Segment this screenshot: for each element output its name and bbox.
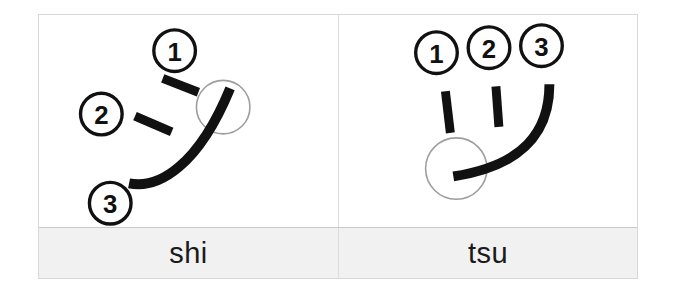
tsu-stroke-number-1: 1 bbox=[416, 32, 458, 74]
kana-stroke-order-table: 1 2 3 bbox=[38, 14, 638, 279]
number-label-2: 2 bbox=[482, 35, 496, 63]
romaji-label-tsu-text: tsu bbox=[468, 239, 508, 268]
romaji-label-row: shi tsu bbox=[39, 227, 637, 278]
romaji-label-shi-text: shi bbox=[169, 239, 208, 268]
tsu-stroke-2-path bbox=[496, 86, 499, 127]
shi-stroke-number-3: 3 bbox=[89, 182, 131, 224]
number-label-1: 1 bbox=[167, 38, 181, 66]
number-label-3: 3 bbox=[103, 190, 117, 218]
stroke-diagram-shi[interactable]: 1 2 3 bbox=[39, 15, 338, 227]
shi-stroke-number-2: 2 bbox=[81, 93, 123, 135]
tsu-stroke-3-path bbox=[453, 84, 549, 176]
tsu-stroke-number-2: 2 bbox=[468, 27, 510, 69]
shi-stroke-3-path bbox=[129, 88, 230, 184]
tsu-stroke-1-path bbox=[445, 91, 450, 133]
shi-stroke-2-path bbox=[135, 116, 172, 132]
number-label-3: 3 bbox=[534, 33, 548, 61]
shi-stroke-1-path bbox=[163, 78, 199, 92]
tsu-glyph-svg: 1 2 3 bbox=[339, 15, 637, 227]
number-label-2: 2 bbox=[94, 101, 108, 129]
romaji-label-shi: shi bbox=[39, 228, 338, 278]
number-label-1: 1 bbox=[429, 40, 443, 68]
stroke-diagram-row: 1 2 3 bbox=[39, 15, 637, 227]
stroke-diagram-tsu[interactable]: 1 2 3 bbox=[338, 15, 637, 227]
shi-glyph-svg: 1 2 3 bbox=[39, 15, 338, 227]
romaji-label-tsu: tsu bbox=[338, 228, 637, 278]
shi-stroke-number-1: 1 bbox=[154, 30, 196, 72]
tsu-stroke-number-3: 3 bbox=[521, 25, 563, 67]
